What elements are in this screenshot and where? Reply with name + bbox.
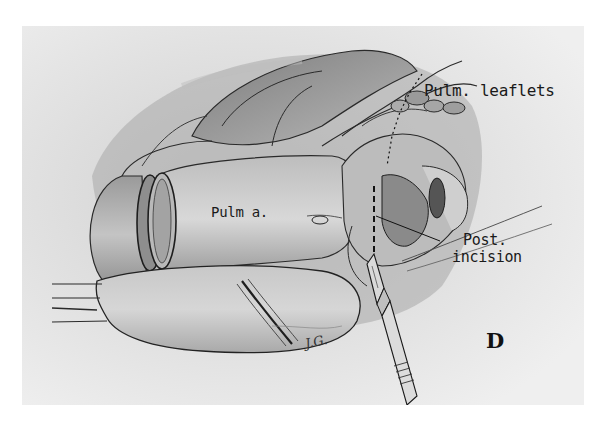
label-post-incision-line2: incision xyxy=(452,249,522,266)
label-pulm-leaflets: Pulm. leaflets xyxy=(424,82,555,99)
label-post-incision-line1: Post. xyxy=(452,232,522,249)
panel-letter: D xyxy=(486,328,504,353)
label-post-incision: Post. incision xyxy=(452,232,522,266)
illustration-panel: Pulm. leaflets Pulm a. Post. incision J.… xyxy=(22,26,584,405)
label-pulm-a: Pulm a. xyxy=(211,204,268,221)
